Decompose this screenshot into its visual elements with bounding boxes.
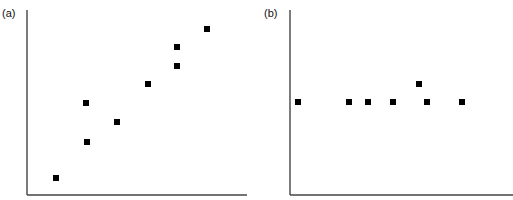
scatter-plots [0, 0, 513, 200]
data-point [424, 99, 430, 105]
data-point [174, 44, 180, 50]
data-point [346, 99, 352, 105]
data-point [365, 99, 371, 105]
data-point [53, 175, 59, 181]
panel-b-plot [290, 10, 513, 195]
data-point [459, 99, 465, 105]
data-point [145, 81, 151, 87]
data-point [84, 139, 90, 145]
panel-a-plot [27, 10, 247, 195]
data-point [416, 81, 422, 87]
data-point [174, 63, 180, 69]
data-point [83, 100, 89, 106]
data-point [295, 99, 301, 105]
data-point [390, 99, 396, 105]
data-point [204, 26, 210, 32]
data-point [114, 119, 120, 125]
